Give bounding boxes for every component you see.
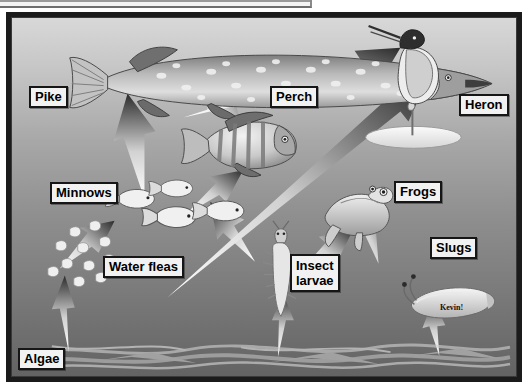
label-pike[interactable]: Pike xyxy=(29,86,68,108)
label-frogs[interactable]: Frogs xyxy=(394,181,442,203)
cropped-window-edge xyxy=(0,0,312,8)
label-insect-larvae[interactable]: Insect larvae xyxy=(290,254,340,292)
diagram-frame: Pike Perch Heron Minnows Frogs Water fle… xyxy=(6,12,522,382)
perch-illustration xyxy=(181,112,296,177)
label-heron[interactable]: Heron xyxy=(459,94,509,116)
arrow-algae-to-water-fleas xyxy=(52,276,75,353)
artist-signature: Kevin! xyxy=(440,303,463,312)
label-algae[interactable]: Algae xyxy=(18,348,65,370)
label-minnows[interactable]: Minnows xyxy=(50,182,118,204)
label-perch[interactable]: Perch xyxy=(270,86,318,108)
pond-scene: Pike Perch Heron Minnows Frogs Water fle… xyxy=(11,17,517,377)
label-water-fleas[interactable]: Water fleas xyxy=(103,256,184,278)
diagram-page: Pike Perch Heron Minnows Frogs Water fle… xyxy=(0,0,528,385)
label-slugs[interactable]: Slugs xyxy=(430,237,477,259)
